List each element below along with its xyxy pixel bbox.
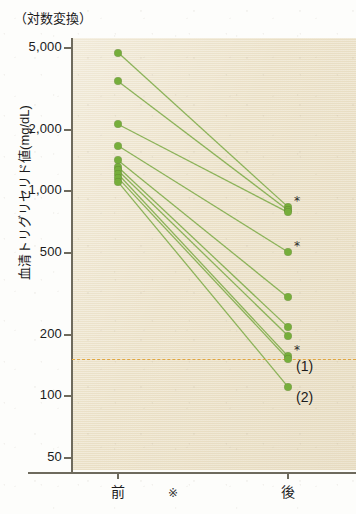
footnote-mark: ※ (168, 486, 178, 500)
reference-line-150 (72, 359, 356, 360)
connector-lines (0, 0, 356, 514)
figure-container: （対数変換） 血清トリグリセリド値(mg/dL) 5,0002,0001,000… (0, 0, 356, 514)
series-connector (118, 160, 288, 297)
series-connector (118, 178, 288, 359)
series-connector (118, 53, 288, 207)
series-connector (118, 170, 288, 335)
series-connector (118, 174, 288, 356)
series-connector (118, 182, 288, 387)
